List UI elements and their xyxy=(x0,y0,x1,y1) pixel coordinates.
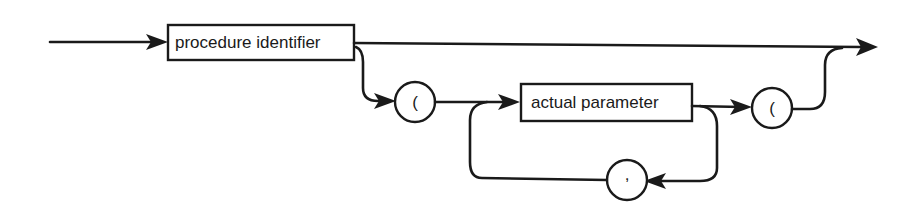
branch-to-open-paren xyxy=(356,47,388,101)
syntax-diagram: procedure identifier ( actual parameter … xyxy=(0,0,920,213)
rejoin-line xyxy=(792,48,842,109)
close-paren-symbol: ( xyxy=(769,99,775,118)
actual-parameter-label: actual parameter xyxy=(531,93,659,112)
comma-symbol: , xyxy=(625,165,630,184)
open-paren-symbol: ( xyxy=(412,93,418,112)
bypass-line xyxy=(354,43,862,47)
procedure-identifier-label: procedure identifier xyxy=(175,33,321,52)
